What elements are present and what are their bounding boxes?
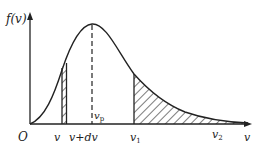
v1-label: v1 bbox=[130, 131, 141, 145]
x-axis-arrow-icon bbox=[244, 121, 252, 127]
v2-label: v2 bbox=[212, 128, 223, 142]
y-axis-arrow-icon bbox=[27, 12, 33, 20]
distribution-diagram: f(v) O vp v v+dv v1 v2 v bbox=[0, 0, 258, 151]
tail-hatch bbox=[134, 70, 250, 125]
y-axis-label: f(v) bbox=[5, 12, 27, 26]
origin-label: O bbox=[18, 130, 28, 144]
strip-hatch bbox=[62, 66, 67, 124]
x-axis-label: v bbox=[244, 131, 251, 144]
strip-left-label: v bbox=[54, 131, 61, 144]
strip-right-label: v+dv bbox=[69, 131, 98, 144]
peak-label: vp bbox=[94, 110, 105, 123]
